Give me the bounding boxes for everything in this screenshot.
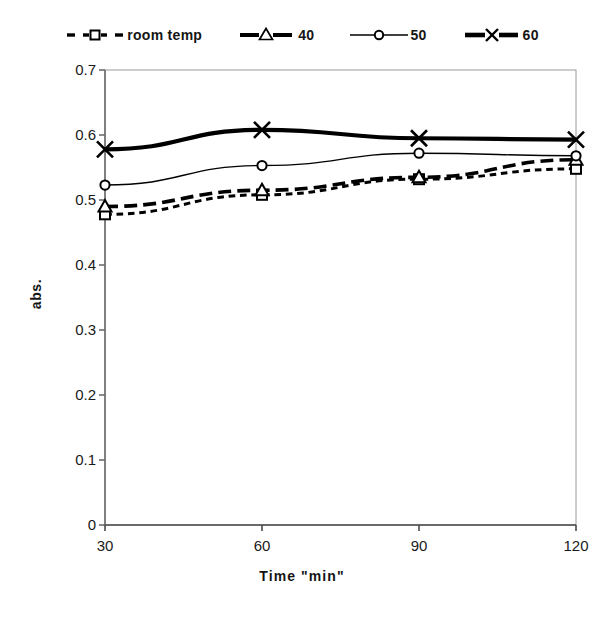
series-line: [105, 130, 576, 150]
x-axis-tick-label: 30: [65, 538, 145, 553]
y-axis-tick-label: 0.3: [30, 322, 96, 337]
data-series: [100, 164, 581, 220]
y-axis-tick-label: 0.1: [30, 452, 96, 467]
y-axis-title: abs.: [28, 264, 44, 324]
x-axis-tick-label: 120: [536, 538, 604, 553]
data-point-marker-circle: [571, 151, 580, 160]
data-series: [99, 153, 583, 211]
y-axis-tick-label: 0.5: [30, 192, 96, 207]
y-axis-tick-label: 0: [30, 517, 96, 532]
series-layer: [97, 122, 584, 220]
y-axis-tick-label: 0.6: [30, 127, 96, 142]
series-line: [105, 169, 576, 215]
y-axis-tick-label: 0.7: [30, 62, 96, 77]
data-point-marker-circle: [257, 161, 266, 170]
chart-container: room temp 40 50: [0, 0, 604, 620]
data-point-marker-circle: [414, 149, 423, 158]
x-axis-tick-label: 90: [379, 538, 459, 553]
series-line: [105, 153, 576, 185]
series-line: [105, 160, 576, 207]
data-point-marker-circle: [100, 180, 109, 189]
y-axis-tick-label: 0.2: [30, 387, 96, 402]
data-series: [97, 122, 584, 158]
x-axis-tick-label: 60: [222, 538, 302, 553]
x-axis-title: Time "min": [0, 568, 604, 584]
